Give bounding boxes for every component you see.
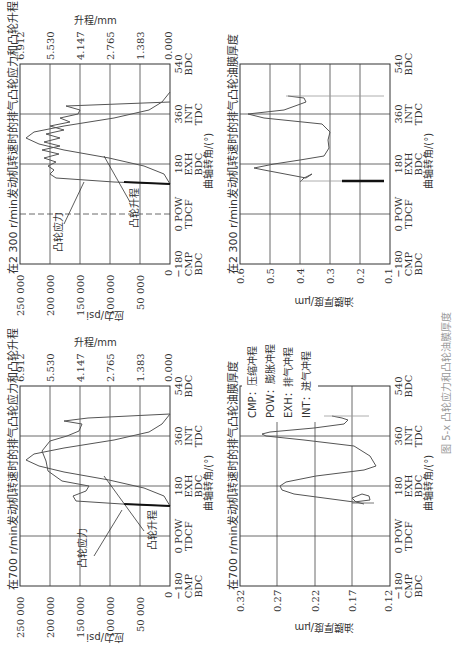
ytick: 150 000 [76,597,86,638]
ytick: 0.2 [356,268,366,284]
figure-page: 在700 r/min发动机转速时的排气凸轮应力和凸轮升程 凸轮应力 凸轮升程 2… [0,0,454,654]
y-axis-label-right: 升程/mm [74,12,117,27]
xtick: −180 CMPBDC [394,566,424,606]
ytick: 0.17 [348,590,358,612]
xtick: −180 CMPBDC [394,244,424,284]
panel-film-2300: 在2 300 r/min发动机转速时的排气凸轮油膜厚度 0.6 0.5 0.4 … [224,0,439,324]
annotation-cam-stress: 凸轮应力 [50,212,65,252]
ytick-right: 6.912 [16,31,26,60]
ytick: 200 000 [46,275,56,316]
ytick: 250 000 [16,275,26,316]
xtick: 540BDC [394,44,414,84]
xtick: 540BDC [174,44,194,84]
annotation-cam-lift: 凸轮升程 [126,188,141,228]
panel-stress-2300: 在2 300 r/min发动机转速时的排气凸轮应力和凸轮升程 凸轮应力 凸轮升程… [4,0,219,324]
x-axis-label: 曲轴转角/(°) [200,133,215,189]
legend-item: CMP：压缩冲程 [244,344,262,418]
annotation-cam-stress: 凸轮应力 [74,528,89,568]
annotation-cam-lift: 凸轮升程 [144,510,159,550]
xtick: 360 INTTDC [174,416,204,456]
xtick: 0 POWTDCF [174,194,194,234]
xtick: 540BDC [174,366,194,406]
figure-caption: 图 5-x 凸轮应力和凸轮油膜厚度 [438,312,453,454]
ytick: 50 000 [136,597,146,632]
panel-stress-700: 在700 r/min发动机转速时的排气凸轮应力和凸轮升程 凸轮应力 凸轮升程 2… [4,319,219,646]
ytick: 150 000 [76,275,86,316]
ytick: 250 000 [16,597,26,638]
xtick: −180 CMPBDC [174,244,204,284]
xtick: 0 POWTDCF [394,194,414,234]
xtick: 0 POWTDCF [394,516,414,556]
panel-film-700: 在700 r/min发动机转速时的排气凸轮油膜厚度 CMP：压缩冲程 POW：膨… [224,319,439,646]
ytick-right: 1.383 [136,31,146,60]
ytick: 200 000 [46,597,56,638]
ytick: 0.27 [273,590,283,612]
xtick: 0 POWTDCF [174,516,194,556]
y-axis-label-right: 升程/mm [74,334,117,349]
ytick: 0.3 [326,268,336,284]
ytick: 50 000 [136,275,146,310]
legend-item: POW：膨胀冲程 [262,344,280,418]
x-axis-label: 曲轴转角/(°) [420,455,435,511]
x-axis-label: 曲轴转角/(°) [420,133,435,189]
xtick: 360 INTTDC [174,94,204,134]
xtick: 540BDC [394,366,414,406]
ytick-right: 2.765 [106,353,116,382]
ytick-right: 1.383 [136,353,146,382]
ytick: 0.32 [236,590,246,612]
ytick: 0.4 [296,268,306,284]
xtick: 360 INTTDC [394,94,424,134]
ytick: 0.22 [311,590,321,612]
ytick-right: 6.912 [16,353,26,382]
y-axis-label: 油膜厚度/μm [295,621,354,636]
ytick: 0.6 [236,268,246,284]
legend-item: INT：进气冲程 [298,344,316,418]
ytick-right: 4.147 [76,353,86,382]
y-axis-label: 油膜厚度/μm [295,295,354,310]
ytick: 0.5 [266,268,276,284]
stroke-legend: CMP：压缩冲程 POW：膨胀冲程 EXH：排气冲程 INT：进气冲程 [242,340,318,422]
xtick: −180 CMPBDC [174,566,204,606]
ytick-right: 4.147 [76,31,86,60]
xtick: 360 INTTDC [394,416,424,456]
y-axis-label: 应力/psi [86,631,124,646]
ytick-right: 5.530 [46,353,56,382]
ytick-right: 2.765 [106,31,116,60]
y-axis-label: 应力/psi [86,309,124,324]
ytick-right: 5.530 [46,31,56,60]
legend-item: EXH：排气冲程 [280,344,298,418]
x-axis-label: 曲轴转角/(°) [200,455,215,511]
